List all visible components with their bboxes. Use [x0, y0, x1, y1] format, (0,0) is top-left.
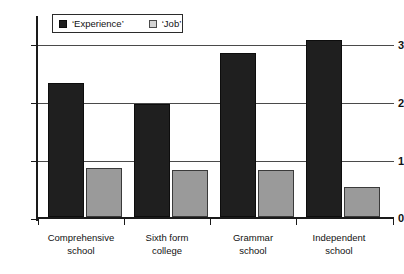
y-tick-mark-3: [31, 45, 37, 46]
bar-group-independent-school: [306, 14, 382, 217]
chart-legend: ‘Experience’ ‘Job’: [52, 14, 183, 33]
x-label-independent-school: Independent school: [284, 231, 394, 257]
bar-experience-independent-school[interactable]: [306, 40, 342, 217]
legend-entry-job[interactable]: ‘Job’: [149, 15, 182, 32]
bar-job-sixth-form-college[interactable]: [172, 170, 208, 217]
y-tick-mark-0: [31, 219, 37, 220]
bar-chart: 3 2 1 0: [0, 0, 404, 274]
light-square-icon: [149, 20, 157, 28]
bar-job-grammar-school[interactable]: [258, 170, 294, 217]
bar-group-grammar-school: [220, 14, 296, 217]
x-tick-1: [124, 219, 125, 225]
x-label-line-1: Independent: [284, 231, 394, 244]
legend-entry-experience[interactable]: ‘Experience’: [59, 15, 124, 32]
x-label-line-2: school: [284, 244, 394, 257]
x-tick-0: [38, 219, 39, 225]
x-tick-4: [393, 219, 394, 225]
bar-experience-comprehensive-school[interactable]: [48, 83, 84, 217]
bar-experience-sixth-form-college[interactable]: [134, 104, 170, 217]
legend-label-job: ‘Job’: [162, 19, 182, 29]
dark-square-icon: [59, 20, 67, 28]
x-tick-3: [296, 219, 297, 225]
bar-group-comprehensive-school: [48, 14, 124, 217]
legend-label-experience: ‘Experience’: [72, 19, 124, 29]
bar-job-comprehensive-school[interactable]: [86, 168, 122, 217]
x-axis-baseline: [38, 217, 394, 219]
bar-job-independent-school[interactable]: [344, 187, 380, 217]
bar-group-sixth-form-college: [134, 14, 210, 217]
y-tick-mark-2: [31, 103, 37, 104]
y-tick-mark-1: [31, 161, 37, 162]
plot-area: [38, 16, 394, 219]
bar-experience-grammar-school[interactable]: [220, 53, 256, 217]
x-tick-2: [210, 219, 211, 225]
